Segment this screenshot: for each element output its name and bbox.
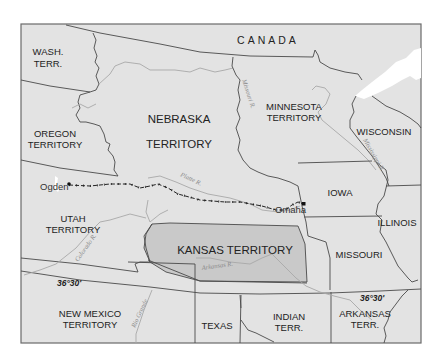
label-minnesota-2: TERRITORY — [267, 112, 322, 123]
label-missouri: MISSOURI — [336, 249, 383, 260]
label-iowa: IOWA — [328, 187, 354, 198]
territorial-map: CANADA WASH. TERR. OREGON TERRITORY NEBR… — [0, 0, 439, 358]
label-arkansas-2: TERR. — [351, 319, 380, 330]
label-indian-1: INDIAN — [273, 311, 305, 322]
label-minnesota-1: MINNESOTA — [266, 101, 322, 112]
label-kansas: KANSAS TERRITORY — [177, 244, 293, 256]
label-wash-1: WASH. — [33, 46, 64, 57]
label-canada: CANADA — [237, 34, 299, 46]
label-wisconsin: WISCONSIN — [357, 126, 412, 137]
label-omaha: Omaha — [275, 204, 307, 215]
label-illinois: ILLINOIS — [377, 217, 416, 228]
label-arkansas-1: ARKANSAS — [339, 308, 391, 319]
label-nebraska-2: TERRITORY — [146, 138, 212, 150]
label-latitude-west: 36°30' — [57, 278, 82, 288]
label-new-mexico-2: TERRITORY — [63, 319, 118, 330]
label-texas: TEXAS — [201, 320, 232, 331]
label-oregon-2: TERRITORY — [28, 139, 83, 150]
label-utah-1: UTAH — [60, 213, 85, 224]
label-oregon-1: OREGON — [34, 128, 76, 139]
label-nebraska-1: NEBRASKA — [148, 113, 211, 125]
label-ogden: Ogden — [40, 181, 69, 192]
label-new-mexico-1: NEW MEXICO — [59, 308, 121, 319]
label-wash-2: TERR. — [34, 58, 63, 69]
label-latitude-east: 36°30' — [360, 293, 385, 303]
label-indian-2: TERR. — [275, 322, 304, 333]
